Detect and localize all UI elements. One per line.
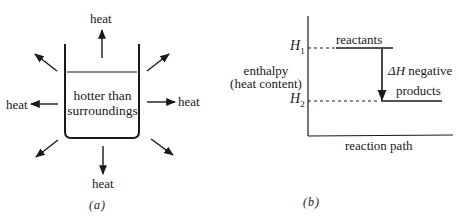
h2-label: H2 [290, 92, 305, 111]
h1-label: H1 [290, 39, 305, 58]
y-axis-label: enthalpy (heat content) [224, 64, 308, 90]
arrow-down-right-icon [151, 139, 173, 155]
h1-symbol: H [290, 38, 300, 53]
delta-h-symbol: ΔH [388, 63, 405, 78]
level-guides [308, 48, 380, 101]
arrow-up-right-icon [147, 54, 169, 71]
delta-h-label: ΔH negative [388, 64, 452, 78]
products-label: products [396, 84, 441, 98]
delta-h-text: negative [405, 63, 452, 78]
h2-subscript: 2 [300, 99, 305, 109]
y-axis-label-line2: (heat content) [224, 77, 308, 90]
arrow-down-left-icon [36, 140, 58, 157]
arrow-up-left-icon [35, 54, 57, 71]
caption-b: (b) [303, 195, 320, 209]
beaker-text: hotter than surroundings [66, 88, 139, 118]
x-axis-label: reaction path [345, 139, 413, 153]
reactants-label: reactants [336, 33, 382, 47]
heat-label-right: heat [178, 95, 200, 109]
beaker-text-line1: hotter than [66, 88, 139, 103]
heat-label-top: heat [90, 12, 112, 26]
heat-label-bottom: heat [92, 177, 114, 191]
beaker-text-line2: surroundings [66, 103, 139, 118]
heat-label-left: heat [6, 98, 28, 112]
h2-symbol: H [290, 91, 300, 106]
h1-subscript: 1 [300, 46, 305, 56]
caption-a: (a) [89, 198, 106, 212]
